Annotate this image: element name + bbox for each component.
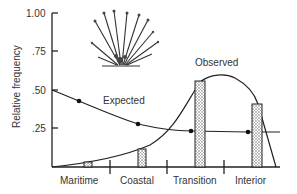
bar-interior <box>252 104 262 167</box>
y-tick-.50: .50 <box>32 85 46 96</box>
expected-label: Expected <box>103 95 145 106</box>
y-tick-.75: .75 <box>32 46 46 57</box>
y-axis-label: Relative frequency <box>11 45 22 128</box>
bar-maritime <box>84 162 92 167</box>
y-tick-1.00: 1.00 <box>26 8 46 19</box>
frequency-chart: Relative frequency 1.00 .75 .50 .25 Mari… <box>0 0 297 194</box>
category-coastal: Coastal <box>120 175 154 186</box>
observed-curve <box>52 75 276 167</box>
category-maritime: Maritime <box>60 175 99 186</box>
category-transition: Transition <box>173 175 217 186</box>
y-tick-.25: .25 <box>32 123 46 134</box>
category-interior: Interior <box>235 175 267 186</box>
bar-transition <box>195 81 205 167</box>
observed-label: Observed <box>195 57 238 68</box>
expected-curve <box>52 90 280 132</box>
bar-coastal <box>138 149 146 167</box>
